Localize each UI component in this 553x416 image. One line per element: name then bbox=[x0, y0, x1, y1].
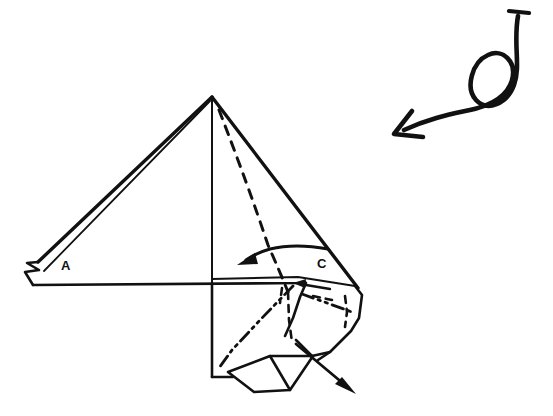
secondary-fold-arrow-head bbox=[293, 279, 306, 288]
turn-over-looped-arrow bbox=[394, 11, 529, 137]
lower-flap-group bbox=[212, 283, 362, 377]
hidden-edge-dashed-main bbox=[219, 110, 288, 292]
turn-over-arrow-shaft bbox=[404, 16, 518, 130]
turn-over-arrow-tail-cap bbox=[509, 11, 529, 13]
pull-out-arrow-shaft bbox=[296, 344, 345, 385]
triangle-right-edge bbox=[212, 97, 358, 288]
pulled-flap-outline bbox=[228, 356, 313, 392]
hidden-edge-dashed-right bbox=[345, 296, 347, 327]
origami-illustration: A C bbox=[0, 0, 553, 416]
hidden-edge-dashed-top-right bbox=[313, 296, 332, 300]
fold-left-curved-arrow bbox=[237, 246, 328, 265]
pulled-flap-crease bbox=[270, 356, 290, 390]
hidden-edge-dashed-top-left bbox=[280, 288, 282, 303]
hidden-edge-dashed-lower bbox=[288, 292, 292, 342]
baseline-horizontal bbox=[33, 282, 305, 285]
fold-arrow-head bbox=[237, 253, 258, 265]
point-label-c: C bbox=[317, 256, 327, 271]
pulled-flap-group bbox=[228, 356, 313, 392]
fold-arrow-shaft bbox=[246, 246, 328, 260]
lower-body-right-contour bbox=[318, 286, 362, 360]
left-tip-notch bbox=[25, 262, 39, 285]
origami-diagram-canvas: A C bbox=[0, 0, 553, 416]
triangle-left-edge-inner bbox=[44, 101, 210, 271]
triangle-left-edge-outer bbox=[38, 97, 212, 262]
point-label-a: A bbox=[61, 258, 71, 273]
main-triangle-group bbox=[25, 97, 358, 292]
